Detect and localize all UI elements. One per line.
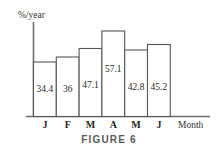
bar-value-label-may: 42.8 (128, 82, 145, 92)
x-tick-label-jan: J (42, 119, 47, 130)
bar-value-label-jun: 45.2 (151, 82, 168, 92)
bar-value-label-jan: 34.4 (37, 84, 54, 94)
figure-caption: FIGURE 6 (0, 134, 218, 145)
bar-value-label-apr: 57.1 (105, 64, 122, 74)
x-tick-label-mar: M (86, 119, 96, 130)
bar-value-label-mar: 47.1 (82, 80, 99, 90)
bar-jun (148, 45, 171, 117)
bar-value-label-feb: 36 (63, 84, 73, 94)
x-tick-label-feb: F (65, 119, 71, 130)
x-tick-label-may: M (131, 119, 141, 130)
figure-container: %/year 34.4 36 47.1 57.1 42.8 45.2 J F M… (0, 0, 218, 154)
y-axis-label: %/year (18, 10, 46, 20)
x-axis-label: Month (178, 120, 204, 130)
bar-chart: %/year 34.4 36 47.1 57.1 42.8 45.2 J F M… (0, 0, 218, 154)
x-tick-label-apr: A (110, 119, 118, 130)
x-tick-label-jun: J (156, 119, 161, 130)
